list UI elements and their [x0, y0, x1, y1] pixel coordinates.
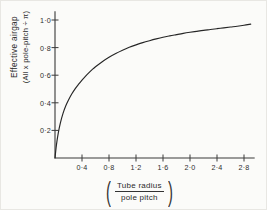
- x-axis-label: ( Tube radius pole pitch ): [104, 181, 175, 202]
- y-tick-label: 0·4: [33, 98, 51, 107]
- close-paren-glyph: ): [168, 182, 173, 202]
- x-tick-label: 2·4: [212, 163, 223, 172]
- figure-container: 0·40·81·21·62·02·42·8 0·20·40·60·81·0 Ef…: [0, 0, 267, 210]
- x-tick-label: 1·2: [131, 163, 142, 172]
- y-axis-label-line2: (All x pole-pitch ÷ π): [20, 0, 31, 111]
- x-tick-label: 2·8: [239, 163, 250, 172]
- x-tick-label: 0·4: [77, 163, 88, 172]
- x-axis-label-fraction: Tube radius pole pitch: [113, 181, 166, 202]
- x-tick-label: 1·6: [158, 163, 169, 172]
- x-axis-label-numerator: Tube radius: [115, 181, 164, 192]
- x-axis-label-denominator: pole pitch: [115, 192, 164, 202]
- curve-effective-airgap: [55, 24, 251, 158]
- x-tick-label: 2·0: [185, 163, 196, 172]
- y-tick-label: 1·0: [33, 16, 51, 25]
- y-tick-label: 0·8: [33, 43, 51, 52]
- y-tick-label: 0·2: [33, 126, 51, 135]
- open-paren-glyph: (: [106, 182, 111, 202]
- y-axis-label-line1: Effective airgap: [9, 0, 20, 111]
- data-series-group: [55, 24, 251, 158]
- axes-group: [55, 12, 254, 158]
- axis-lines: [55, 12, 254, 158]
- x-tick-label: 0·8: [104, 163, 115, 172]
- y-tick-label: 0·6: [33, 71, 51, 80]
- y-axis-label: Effective airgap (All x pole-pitch ÷ π): [9, 0, 31, 111]
